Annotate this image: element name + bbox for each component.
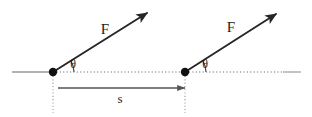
diagram-canvas: F F θ θ s	[0, 0, 312, 117]
displacement-label: s	[117, 91, 122, 106]
application-point-left	[49, 68, 57, 76]
force-vectors-group	[53, 13, 276, 72]
force-displacement-diagram: F F θ θ s	[0, 0, 312, 117]
force-label-right: F	[227, 19, 235, 35]
angle-label-right: θ	[202, 57, 208, 71]
force-label-left: F	[101, 21, 109, 37]
application-point-right	[181, 68, 189, 76]
angle-label-left: θ	[70, 57, 76, 71]
labels-group: F F θ θ s	[70, 19, 235, 106]
